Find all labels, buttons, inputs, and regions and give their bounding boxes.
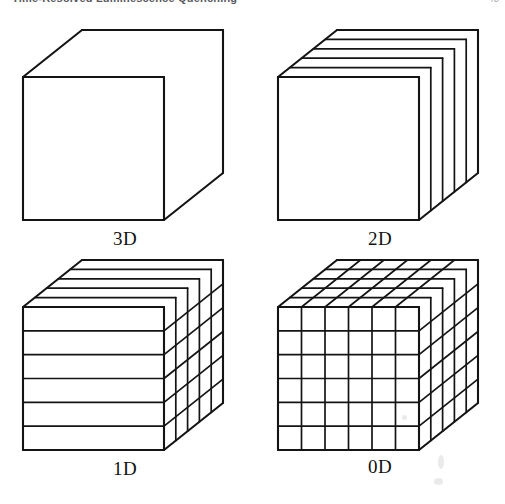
panel-label-1d: 1D — [0, 458, 250, 480]
panel-2d: 2D — [255, 20, 505, 270]
panel-label-0d: 0D — [255, 456, 505, 478]
panel-label-3d: 3D — [0, 228, 250, 250]
panel-label-2d: 2D — [255, 228, 505, 250]
front-face-fill — [278, 77, 419, 220]
panel-1d: 1D — [0, 250, 250, 500]
panel-3d: 3D — [0, 20, 250, 270]
panel-0d: 0D — [255, 250, 505, 500]
front-face-fill — [23, 77, 164, 220]
dimensionality-figure: 3D 2D 1D 0D — [0, 0, 505, 504]
